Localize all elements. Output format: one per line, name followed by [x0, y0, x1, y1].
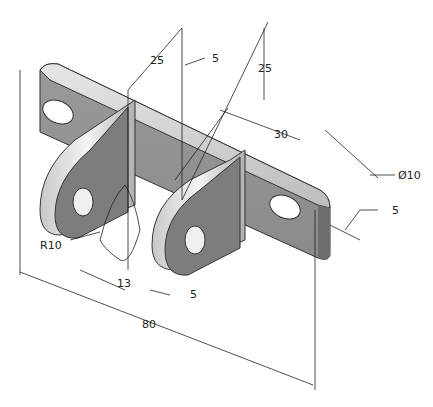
dim-right-5: 5	[392, 204, 399, 217]
dim-top-left-25: 25	[150, 54, 164, 67]
bracket-drawing: 25 5 25 30 Ø10 5 R10 13 5 80	[0, 0, 433, 407]
dim-radius: R10	[40, 239, 62, 252]
dim-top-5: 5	[212, 52, 219, 65]
lug-hole-left	[73, 188, 93, 216]
dim-overall-80: 80	[142, 318, 156, 331]
lug-hole-right	[185, 226, 205, 254]
dim-bottom-13: 13	[117, 277, 131, 290]
dim-top-right-25: 25	[258, 62, 272, 75]
dim-bottom-5: 5	[190, 288, 197, 301]
dim-right-30: 30	[274, 128, 288, 141]
dim-hole-diameter: Ø10	[398, 169, 421, 182]
